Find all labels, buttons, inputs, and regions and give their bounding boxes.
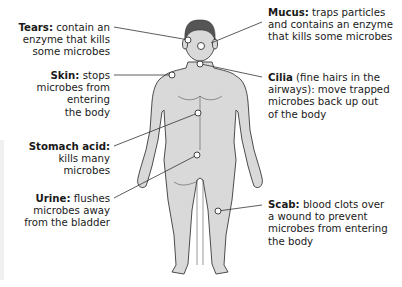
term-mucus: Mucus:: [268, 7, 309, 18]
label-mucus: Mucus: traps particles and contains an e…: [268, 7, 393, 44]
label-skin: Skin: stops microbes from entering the b…: [36, 70, 110, 119]
term-stomach-acid: Stomach acid:: [29, 141, 110, 152]
label-stomach-acid: Stomach acid: kills many microbes: [29, 141, 110, 178]
term-scab: Scab:: [268, 199, 300, 210]
term-urine: Urine:: [36, 193, 71, 204]
label-tears: Tears: contain an enzyme that kills some…: [18, 22, 110, 59]
marker-tears: [185, 37, 191, 43]
marker-urine: [194, 152, 200, 158]
term-cilia: Cilia: [268, 72, 293, 83]
marker-stomach: [195, 110, 201, 116]
term-skin: Skin:: [51, 70, 80, 81]
marker-mucus: [198, 43, 205, 50]
marker-scab: [215, 208, 221, 214]
term-tears: Tears:: [18, 22, 53, 33]
label-scab: Scab: blood clots over a wound to preven…: [268, 199, 388, 248]
label-cilia: Cilia (fine hairs in the airways): move …: [268, 72, 390, 121]
marker-skin: [169, 72, 175, 78]
marker-cilia: [197, 61, 203, 67]
label-urine: Urine: flushes microbes away from the bl…: [24, 193, 110, 230]
